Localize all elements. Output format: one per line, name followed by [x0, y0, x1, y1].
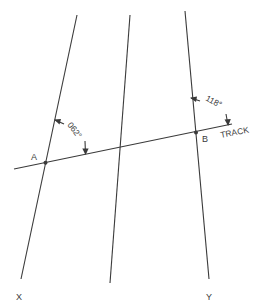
point-a-dot — [44, 161, 48, 165]
point-b-label: B — [202, 134, 208, 144]
track-meridian-diagram: 062° 118° A B TRACK X Y — [0, 0, 265, 308]
point-a-label: A — [31, 152, 37, 162]
point-b-dot — [194, 131, 198, 135]
meridian-y-line — [185, 11, 209, 279]
angle-118-label: 118° — [204, 93, 224, 110]
angle-062-label: 062° — [65, 120, 84, 140]
meridian-y-label: Y — [206, 292, 212, 302]
meridian-x-label: X — [16, 292, 22, 302]
track-label: TRACK — [219, 125, 250, 140]
meridian-x-line — [21, 15, 77, 279]
